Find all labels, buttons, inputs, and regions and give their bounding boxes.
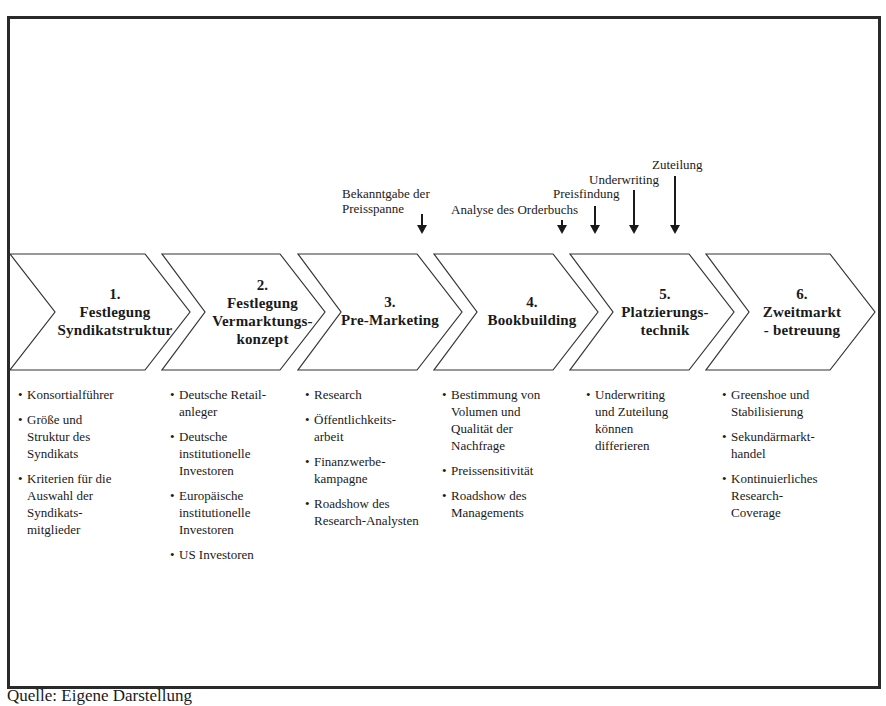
stage-1-details: • Konsortialführer • Größe undStruktur d… <box>18 386 158 546</box>
list-item: • Underwritingund Zuteilungkönnendifferi… <box>586 386 696 454</box>
stage-2-details: • Deutsche Retail-anleger • Deutscheinst… <box>170 386 300 571</box>
list-item: • Kriterien für dieAuswahl derSyndikats-… <box>18 470 158 538</box>
list-item: • US Investoren <box>170 546 300 563</box>
stage-5-details: • Underwritingund Zuteilungkönnendifferi… <box>586 386 696 462</box>
annotation-zuteilung: Zuteilung <box>652 157 703 172</box>
annotation-bekanntgabe: Bekanntgabe der Preisspanne <box>342 186 430 216</box>
stage-5-title: 5. Platzierungs- technik <box>605 285 725 339</box>
list-item: • Roadshow desManagements <box>442 487 572 521</box>
annotation-analyse-orderbuch: Analyse des Orderbuchs <box>451 202 578 217</box>
list-item: • Preissensitivität <box>442 462 572 479</box>
list-item: • Greenshoe undStabilisierung <box>722 386 852 420</box>
list-item: • KontinuierlichesResearch-Coverage <box>722 470 852 521</box>
list-item: • Bestimmung vonVolumen undQualität derN… <box>442 386 572 454</box>
stage-3-details: • Research • Öffentlichkeits-arbeit • Fi… <box>305 386 445 537</box>
annotation-preisfindung: Preisfindung <box>553 186 619 201</box>
down-arrow-icon <box>417 214 427 234</box>
down-arrow-icon <box>590 206 600 234</box>
down-arrow-icon <box>629 190 639 234</box>
stage-6-title: 6. Zweitmarkt - betreuung <box>742 285 862 339</box>
list-item: • Research <box>305 386 445 403</box>
list-item: • Öffentlichkeits-arbeit <box>305 411 445 445</box>
list-item: • EuropäischeinstitutionelleInvestoren <box>170 487 300 538</box>
stage-6-details: • Greenshoe undStabilisierung • Sekundär… <box>722 386 852 529</box>
stage-1-title: 1. Festlegung Syndikatstruktur <box>40 285 190 339</box>
list-item: • Finanzwerbe-kampagne <box>305 453 445 487</box>
list-item: • DeutscheinstitutionelleInvestoren <box>170 428 300 479</box>
down-arrow-icon <box>670 176 680 234</box>
list-item: • Sekundärmarkt-handel <box>722 428 852 462</box>
annotation-underwriting: Underwriting <box>589 172 659 187</box>
list-item: • Roadshow desResearch-Analysten <box>305 495 445 529</box>
list-item: • Deutsche Retail-anleger <box>170 386 300 420</box>
list-item: • Größe undStruktur desSyndikats <box>18 411 158 462</box>
source-caption: Quelle: Eigene Darstellung <box>7 686 192 706</box>
down-arrow-icon <box>557 220 567 234</box>
stage-2-title: 2. Festlegung Vermarktungs- konzept <box>190 276 335 348</box>
stage-3-title: 3. Pre-Marketing <box>330 293 450 329</box>
stage-4-details: • Bestimmung vonVolumen undQualität derN… <box>442 386 572 529</box>
list-item: • Konsortialführer <box>18 386 158 403</box>
stage-4-title: 4. Bookbuilding <box>472 293 592 329</box>
